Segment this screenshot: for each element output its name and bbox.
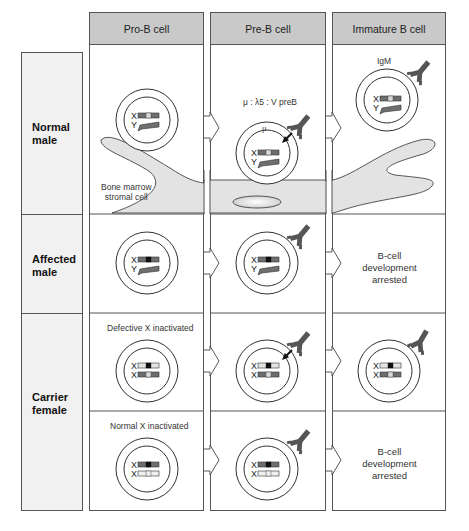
arrow-right-icon — [326, 112, 341, 142]
pre-b-receptor-caption: μ : λ5 : V preB — [243, 97, 297, 107]
chromosome-x-inactive-normal — [258, 471, 279, 476]
mu-label: μ — [262, 123, 267, 133]
chromosome-label: X — [251, 370, 257, 380]
arrow-right-icon — [204, 445, 219, 475]
arrested-line: arrested — [342, 470, 437, 482]
chromosome-x — [258, 150, 279, 155]
igm-caption: IgM — [377, 56, 391, 66]
chromosome-label: Y — [131, 120, 137, 130]
caption-line: Bone marrow — [101, 182, 152, 192]
arrested-line: B-cell — [342, 446, 437, 458]
pre-b-cell-carrier-defective-x-inactivated: X X — [236, 327, 316, 402]
chromosome-label: Y — [251, 157, 257, 167]
chromosome-label: X — [131, 469, 137, 479]
immature-b-cell-normal-male: X Y — [356, 56, 436, 131]
chromosome-x-active-normal — [258, 372, 279, 377]
defective-x-inactivated-caption: Defective X inactivated — [107, 323, 193, 333]
chromosome-x-active-normal — [380, 372, 401, 377]
chromosome-x-defective — [258, 257, 279, 262]
pro-b-cell-carrier-normal-x-inactivated: X X — [116, 438, 178, 500]
pre-b-cell-affected-male: X Y — [236, 220, 316, 294]
chromosome-label: Y — [251, 264, 257, 274]
arrow-right-icon — [204, 248, 219, 278]
chromosome-label: X — [251, 469, 257, 479]
arrested-note-carrier-normal-x-inactivated: B-cell development arrested — [342, 446, 437, 482]
arrow-right-icon — [326, 445, 341, 475]
chromosome-label: Y — [131, 264, 137, 274]
chromosome-label: X — [131, 370, 137, 380]
chromosome-label: X — [373, 370, 379, 380]
arrested-line: arrested — [342, 274, 437, 286]
arrested-line: development — [342, 458, 437, 470]
chromosome-x-inactive-defective — [258, 363, 279, 368]
pro-b-cell-carrier-defective-x-inactivated: X X — [116, 340, 178, 402]
chromosome-x-inactive-defective — [138, 363, 159, 368]
chromosome-label: Y — [373, 103, 379, 113]
pre-b-cell-carrier-normal-x-inactivated: X X — [236, 425, 316, 500]
arrow-right-icon — [204, 346, 219, 376]
chromosome-x-inactive-normal — [138, 471, 159, 476]
arrested-line: B-cell — [342, 250, 437, 262]
pro-b-cell-normal-male: X Y — [116, 89, 178, 151]
arrow-right-icon — [204, 112, 219, 142]
chromosome-x-active-normal — [138, 372, 159, 377]
pro-b-cell-affected-male: X Y — [116, 232, 178, 294]
stromal-cell-caption: Bone marrow stromal cell — [101, 182, 152, 202]
normal-x-inactivated-caption: Normal X inactivated — [110, 421, 188, 431]
stromal-nucleus — [233, 196, 281, 208]
chromosome-x-active-defective — [258, 462, 279, 467]
chromosome-x-active-defective — [138, 462, 159, 467]
caption-line: stromal cell — [101, 192, 152, 202]
chromosome-x-defective — [138, 257, 159, 262]
arrow-right-icon — [326, 248, 341, 278]
arrested-note-affected-male: B-cell development arrested — [342, 250, 437, 286]
arrow-right-icon — [326, 346, 341, 376]
immature-b-cell-carrier-defective-x-inactivated: X X — [358, 326, 435, 402]
arrested-line: development — [342, 262, 437, 274]
chromosome-x — [138, 113, 159, 118]
pre-b-cell-normal-male: X Y μ — [236, 110, 316, 184]
chromosome-x-inactive-defective — [380, 363, 401, 368]
chromosome-x — [380, 96, 401, 101]
